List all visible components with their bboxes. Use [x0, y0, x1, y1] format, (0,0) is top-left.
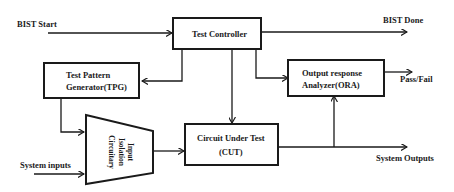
- isolation-label-line2: Isolation: [116, 118, 125, 186]
- cut-label-line2: (CUT): [219, 146, 243, 158]
- test-controller-block: Test Controller: [172, 17, 262, 50]
- isolation-label-line1: Input: [126, 118, 135, 186]
- controller-to-ora-arrow: [256, 49, 288, 78]
- bist-done-label: BIST Done: [383, 16, 423, 25]
- system-outputs-label: System Outputs: [376, 154, 434, 163]
- controller-to-tpg-arrow: [142, 49, 182, 81]
- tpg-label-line2: Generator(TPG): [66, 81, 127, 93]
- isolation-label-line3: Circuitary: [107, 118, 116, 186]
- system-inputs-label: System inputs: [20, 161, 71, 170]
- ora-label-line2: Analyzer(ORA): [302, 79, 360, 91]
- test-controller-label: Test Controller: [192, 28, 247, 40]
- cut-block: Circuit Under Test (CUT): [184, 123, 279, 166]
- pass-fail-label: Pass/Fail: [400, 75, 433, 84]
- ora-label-line1: Output response: [302, 67, 362, 79]
- tpg-to-isolation-arrow: [61, 98, 84, 132]
- tpg-block: Test Pattern Generator(TPG): [43, 62, 140, 99]
- tpg-label-line1: Test Pattern: [66, 69, 110, 81]
- bist-start-label: BIST Start: [17, 20, 57, 29]
- input-isolation-label: Input Isolation Circuitary: [105, 118, 135, 186]
- cut-label-line1: Circuit Under Test: [197, 132, 265, 144]
- ora-block: Output response Analyzer(ORA): [287, 59, 385, 97]
